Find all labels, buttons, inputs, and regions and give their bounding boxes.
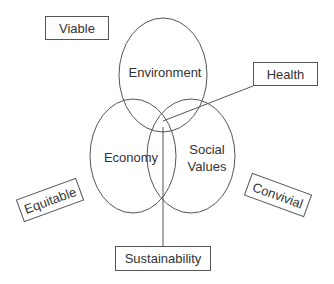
environment-label: Environment [123, 64, 207, 81]
social-values-label: Social Values [180, 141, 234, 175]
health-box: Health [253, 62, 318, 86]
venn-diagram [0, 0, 334, 284]
health-connector-line [163, 86, 253, 121]
social-label-line2: Values [180, 158, 234, 175]
viable-box: Viable [45, 16, 109, 40]
sustainability-box: Sustainability [115, 246, 211, 271]
social-label-line1: Social [180, 141, 234, 158]
economy-label: Economy [96, 149, 166, 166]
